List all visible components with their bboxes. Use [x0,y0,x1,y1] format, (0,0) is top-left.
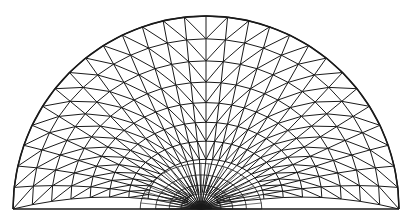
mesh-edge [312,126,321,137]
mesh-edge [193,103,206,104]
mesh-edge [209,186,213,187]
mesh-edge [302,189,303,197]
mesh-edge [146,158,152,163]
mesh-edge [225,162,231,164]
mesh-edge [262,190,263,194]
mesh-edge [310,156,315,166]
mesh-edge [283,189,302,192]
mesh-edge [71,186,72,199]
mesh-edge [59,114,85,117]
mesh-edge [84,147,108,148]
mesh-edge [254,154,261,158]
mesh-edge [93,166,97,176]
mesh-edge [211,196,213,197]
mesh-edge [240,48,263,64]
mesh-edge [50,127,76,133]
mesh-edge [129,190,149,191]
mesh-edge [131,144,138,150]
mesh-edge [144,112,155,117]
mesh-edge [321,187,322,198]
mesh-edge [134,117,145,123]
mesh-edge [55,87,83,88]
mesh-edge [359,186,360,202]
mesh-edge [155,64,172,68]
mesh-edge [93,176,112,180]
mesh-edge [297,137,321,139]
mesh-edge [251,174,255,178]
mesh-edge [319,176,321,187]
mesh-edge [112,179,133,181]
mesh-edge [170,203,171,206]
mesh-edge [219,160,225,161]
mesh-edge [97,165,119,167]
mesh-edge [151,154,158,158]
mesh-edge [124,123,134,130]
mesh-edge [176,85,193,103]
mesh-diagram: Triangular finite element mesh of a half… [0,0,413,221]
mesh-edge [72,173,75,186]
mesh-edge [53,173,75,186]
mesh-edge [290,108,301,117]
mesh-edge [268,117,279,123]
mesh-edge [206,82,221,83]
mesh-edge [302,92,315,103]
mesh-edge [223,143,231,145]
mesh-edge [261,203,262,209]
mesh-edge [60,148,84,155]
mesh-edge [189,62,206,82]
mesh-edge [297,138,305,147]
mesh-edge [232,203,233,206]
mesh-edge [156,200,157,204]
mesh-edge [342,101,370,106]
mesh-edge [158,150,165,154]
mesh-edge [108,138,116,147]
mesh-edge [189,61,206,62]
mesh-edge [184,17,186,40]
mesh-edge [342,89,357,102]
mesh-edge [193,160,199,161]
mesh-edge [70,87,83,101]
mesh-edge [315,101,342,102]
mesh-edge [314,73,342,76]
mesh-edge [329,87,342,101]
mesh-edge [124,75,139,83]
mesh-edge [136,168,140,174]
mesh-edge [329,73,343,88]
mesh-edge [276,172,298,173]
mesh-edge [70,73,84,88]
mesh-edge [14,186,33,187]
mesh-edge [321,186,340,187]
mesh-edge [170,165,175,168]
mesh-edge [213,160,219,161]
mesh-edge [74,166,96,173]
mesh-edge [119,157,124,164]
mesh-edge [248,130,257,134]
mesh-edge [138,139,146,145]
mesh-edge [240,147,248,150]
mesh-edge [320,137,327,149]
mesh-edge [110,189,111,197]
mesh-edge [319,173,338,176]
mesh-edge [56,170,75,173]
mesh-edge [122,100,134,108]
mesh-edge [328,148,352,155]
mesh-edge [231,147,239,163]
mesh-edge [370,145,388,150]
mesh-edge [138,144,158,153]
mesh-edge [217,123,228,124]
mesh-edge [97,92,110,103]
mesh-edge [274,144,281,150]
mesh-edge [293,165,297,173]
mesh-edge [79,156,102,160]
mesh-edge [293,156,310,164]
mesh-edge [191,83,206,103]
mesh-edge [258,182,261,186]
mesh-edge [219,103,232,105]
mesh-edge [189,175,195,176]
mesh-edge [300,176,319,180]
mesh-edge [92,137,108,147]
mesh-edge [353,106,369,116]
mesh-edge [115,165,119,173]
mesh-edge [255,178,258,182]
mesh-edge [232,144,240,147]
